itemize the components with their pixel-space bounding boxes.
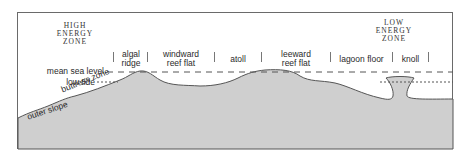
section-label-line1: knoll [394,55,427,64]
section-divider [214,52,215,62]
high-energy-zone-text: HIGH ENERGY ZONE [57,21,93,46]
section-divider [392,52,393,62]
section-label-line2: ridge [115,59,147,68]
section-divider [330,52,331,62]
section-divider [147,52,148,62]
section-leeward-reef-flat: leeward reef flat [263,50,329,68]
section-windward-reef-flat: windward reef flat [150,50,212,68]
section-label-line2: reef flat [263,59,329,68]
section-label-line2: reef flat [150,59,212,68]
section-label-line1: lagoon floor [332,55,391,64]
section-algal-ridge: algal ridge [115,50,147,68]
section-lagoon-floor: lagoon floor [332,55,391,64]
section-label-line1: atoll [216,55,260,64]
low-energy-zone-text: LOW ENERGY ZONE [376,18,412,43]
section-divider [428,52,429,62]
section-divider [113,52,114,62]
section-atoll: atoll [216,55,260,64]
section-knoll: knoll [394,55,427,64]
low-energy-zone-label: LOW ENERGY ZONE [362,19,426,43]
high-energy-zone-label: HIGH ENERGY ZONE [45,22,105,46]
section-divider [261,52,262,62]
